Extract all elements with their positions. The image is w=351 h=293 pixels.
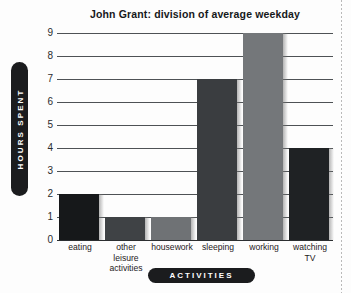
y-tick-label-7: 7	[37, 74, 53, 84]
x-tick-label-working: working	[241, 242, 287, 253]
bar-shadow	[191, 217, 196, 240]
bar-housework[interactable]	[151, 217, 191, 240]
x-tick-label-sleeping: sleeping	[195, 242, 241, 253]
x-tick-label-eating: eating	[57, 242, 103, 253]
y-axis-label-pill: HOURS SPENT	[11, 62, 28, 196]
bar-shadow	[99, 194, 104, 240]
x-label-line: eating	[68, 242, 91, 252]
bar-shadow	[283, 33, 288, 240]
bar-watching-TV[interactable]	[289, 148, 329, 240]
y-axis-tick-labels: 9876543210	[35, 33, 53, 240]
chart-title: John Grant: division of average weekday	[57, 8, 333, 20]
plot-area	[57, 33, 333, 240]
page-edge-artifact	[341, 0, 342, 293]
bar-shadow	[145, 217, 150, 240]
y-tick-label-5: 5	[37, 120, 53, 130]
bar-sleeping[interactable]	[197, 79, 237, 240]
y-tick-label-4: 4	[37, 143, 53, 153]
y-tick-label-2: 2	[37, 189, 53, 199]
y-axis-label-text: HOURS SPENT	[15, 89, 24, 170]
bar-working[interactable]	[243, 33, 283, 240]
bar-shadow	[329, 148, 334, 240]
x-tick-label-housework: housework	[149, 242, 195, 253]
x-axis-label-text: ACTIVITIES	[148, 268, 255, 283]
bar-shadow	[237, 79, 242, 240]
y-tick-label-3: 3	[37, 166, 53, 176]
y-tick-label-1: 1	[37, 212, 53, 222]
gridline-0	[57, 240, 333, 241]
x-tick-label-watching-TV: watchingTV	[287, 242, 333, 263]
x-label-line: watching	[293, 242, 327, 252]
bar-eating[interactable]	[59, 194, 99, 240]
y-tick-label-6: 6	[37, 97, 53, 107]
bar-series	[57, 33, 333, 240]
x-label-line: activities	[110, 263, 143, 273]
x-label-line: TV	[305, 253, 316, 263]
x-axis-label-pill: ACTIVITIES	[148, 268, 255, 283]
y-tick-label-0: 0	[37, 235, 53, 245]
x-label-line: working	[249, 242, 279, 252]
x-label-line: housework	[151, 242, 193, 252]
x-label-line: leisure	[113, 253, 138, 263]
y-tick-label-8: 8	[37, 51, 53, 61]
bar-chart-figure: John Grant: division of average weekday …	[0, 0, 351, 293]
y-tick-label-9: 9	[37, 28, 53, 38]
x-label-line: other	[116, 242, 136, 252]
x-label-line: sleeping	[202, 242, 234, 252]
bar-other-leisure-activities[interactable]	[105, 217, 145, 240]
x-tick-label-other-leisure-activities: otherleisureactivities	[103, 242, 149, 274]
